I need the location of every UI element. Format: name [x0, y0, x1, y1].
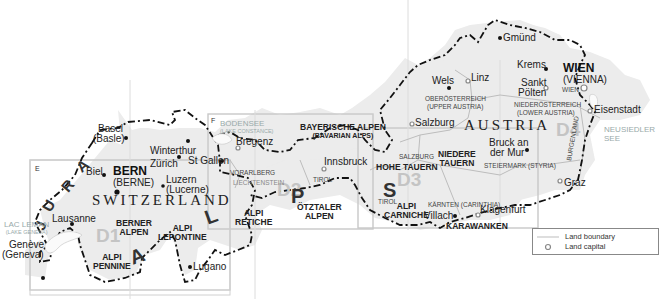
capital-bern-alt: (BERNE) — [113, 178, 154, 188]
city-graz: Graz — [564, 178, 586, 188]
land-vorarlberg: VORARLBERG — [230, 169, 275, 176]
capital-wien-alt: (VIENNA) — [563, 75, 607, 85]
range-niedere-tauern: NIEDERE TAUERN — [438, 150, 476, 169]
country-austria: AUSTRIA — [464, 118, 550, 133]
land-noe-1: NIEDERÖSTERREICH — [514, 101, 581, 108]
range-bayerische-alpen: BAYERISCHE ALPEN (BAVARIAN ALPS) — [300, 123, 386, 140]
legend-item-land-boundary: Land boundary — [537, 232, 615, 241]
range-alpi-retiche: ALPI RETICHE — [235, 209, 272, 228]
country-switzerland: SWITZERLAND — [92, 193, 232, 208]
city-luzern-alt: (Lucerne) — [166, 185, 209, 195]
land-liechtenstein: LIECHTENSTEIN — [233, 179, 284, 186]
city-bruck-2: der Mur — [490, 148, 524, 158]
land-steiermark: STEIERMARK (STYRIA) — [484, 162, 556, 169]
city-basel-alt: (Basle) — [93, 134, 125, 144]
land-boundary-line-icon — [537, 234, 559, 240]
land-noe-2: (LOWER AUSTRIA) — [517, 109, 575, 116]
range-berner-alpen: BERNER ALPEN — [116, 219, 152, 238]
city-bregenz: Bregenz — [236, 137, 273, 147]
city-salzburg: Salzburg — [415, 118, 454, 128]
land-salzburg: SALZBURG — [399, 153, 434, 160]
city-sankt-polten-2: Pölten — [518, 88, 546, 98]
land-karnten: KÄRNTEN (CARINTHIA) — [428, 201, 500, 208]
panel-corner-f: F — [211, 117, 215, 124]
region-letter-s: S — [383, 180, 396, 200]
city-linz: Linz — [471, 73, 489, 83]
land-wien: WIEN — [562, 86, 579, 93]
lake-neusiedler-label: NEUSIEDLER SEE — [604, 125, 655, 143]
lake-bodensee-label: BODENSEE (LAKE CONSTANCE) — [220, 119, 273, 135]
range-otztaler-alpen: ÖTZTALER ALPEN — [297, 203, 342, 222]
range-hohe-tauern: HOHE TAUERN — [376, 163, 438, 172]
city-wels: Wels — [432, 76, 454, 86]
range-alpi-pennine: ALPI PENNINE — [93, 253, 131, 272]
city-innsbruck: Innsbruck — [324, 157, 367, 167]
city-biel: Biel — [86, 167, 103, 177]
city-gmund: Gmünd — [503, 33, 536, 43]
land-capital-circle-icon — [537, 243, 559, 251]
capital-wien: WIEN — [563, 62, 594, 74]
panel-corner-e: E — [35, 165, 40, 172]
city-krems: Krems — [517, 60, 546, 70]
capital-bern: BERN — [113, 165, 147, 177]
land-tirol-1: TIROL — [313, 176, 332, 183]
land-ooe-2: (UPPER AUSTRIA) — [427, 103, 483, 110]
range-alpi-carniche: ALPI CARNICHE — [384, 202, 429, 221]
city-zurich: Zürich — [150, 159, 178, 169]
legend-item-land-capital: Land capital — [537, 242, 605, 251]
range-karawanken: KARAWANKEN — [446, 222, 508, 231]
land-ooe-1: OBERÖSTERREICH — [425, 95, 486, 102]
lake-leman-label: LAC LEMAN (LAKE GENEVA) — [4, 220, 49, 236]
panel-id-d3[interactable]: D3 — [397, 170, 421, 189]
city-st-gallen: St Gallen — [188, 156, 229, 166]
city-lausanne: Lausanne — [52, 214, 96, 224]
range-alpi-lepontine: ALPI LEPONTINE — [158, 224, 207, 243]
city-geneve-alt: (Geneva) — [2, 250, 44, 260]
map-legend: Land boundary Land capital — [532, 228, 659, 255]
city-eisenstadt: Eisenstadt — [594, 105, 641, 115]
map-canvas: D1 D2 D3 D4 E F J U R A A L P S SWITZERL… — [0, 0, 659, 299]
city-lugano: Lugano — [193, 262, 226, 272]
